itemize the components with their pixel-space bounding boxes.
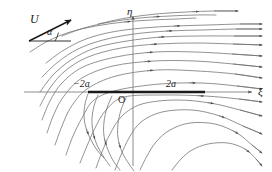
streamline (84, 94, 104, 158)
streamline-direction-arrow (119, 142, 121, 148)
plate-left-endpoint-label: −2a (73, 79, 90, 89)
streamline-canvas (0, 0, 272, 172)
streamline (98, 11, 238, 24)
freestream-speed-label: U (30, 13, 39, 25)
streamline-direction-arrow (93, 133, 95, 139)
streamline-exit-arrow (240, 110, 262, 116)
streamline (172, 143, 262, 170)
origin-label: O (118, 95, 125, 105)
plate-right-endpoint-label: 2a (166, 79, 176, 89)
streamline (30, 18, 196, 52)
streamline-exit-arrow (239, 99, 262, 102)
streamline-figure: η ξ O U α −2a 2a (0, 0, 272, 172)
streamline-direction-arrow (86, 129, 88, 135)
streamline-exit-arrow (232, 54, 262, 56)
streamline (115, 110, 262, 170)
streamline (80, 95, 262, 163)
streamline-direction-arrow (147, 70, 153, 71)
streamline-direction-arrow (124, 21, 130, 22)
streamline-direction-arrow (219, 116, 225, 118)
streamline-direction-arrow (233, 131, 238, 134)
streamline-exit-arrow (252, 145, 262, 153)
streamline (47, 60, 262, 133)
streamline-exit-arrow (233, 44, 262, 45)
eta-axis-label: η (127, 6, 132, 17)
streamline-exit-arrow (243, 126, 262, 134)
streamline-exit-arrow (233, 64, 262, 67)
streamline-exit-arrow (256, 159, 262, 166)
streamline-exit-arrow (235, 74, 262, 78)
angle-of-attack-label: α (47, 27, 52, 37)
streamline-direction-arrow (208, 103, 214, 104)
streamline-direction-arrow (245, 149, 250, 153)
xi-axis-label: ξ (258, 86, 263, 97)
